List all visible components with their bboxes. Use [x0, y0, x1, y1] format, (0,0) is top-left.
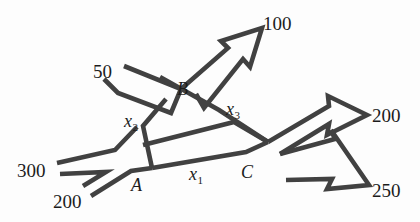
- variable-x3-base: x: [226, 99, 234, 119]
- variable-x1-base: x: [189, 164, 197, 184]
- node-label-b: B: [177, 80, 188, 98]
- node-label-a: A: [131, 176, 142, 194]
- outflow-label-100: 100: [263, 14, 292, 33]
- variable-x2-base: x: [124, 111, 132, 131]
- variable-label-x3: x3: [226, 100, 240, 118]
- inflow-label-50: 50: [93, 62, 112, 81]
- inflow-300-arrow: [57, 127, 137, 163]
- inflow-label-300: 300: [17, 161, 46, 180]
- outflow-label-250: 250: [372, 181, 401, 200]
- outflow-label-200: 200: [372, 106, 401, 125]
- variable-x3-subscript: 3: [235, 109, 241, 121]
- variable-x1-subscript: 1: [198, 174, 204, 186]
- variable-label-x1: x1: [189, 165, 203, 183]
- node-label-c: C: [241, 163, 253, 181]
- variable-x2-subscript: 2: [133, 121, 139, 133]
- variable-label-x2: x2: [124, 112, 138, 130]
- inflow-50-arrow: [104, 66, 181, 113]
- inflow-label-200: 200: [53, 192, 82, 211]
- traffic-flow-diagram: 50 300 200 100 200 250 A B C x1 x2 x3: [0, 0, 420, 222]
- outflow-250-arrow: [280, 130, 369, 189]
- flow-network-graphic: [0, 0, 420, 222]
- edge-diagonal-path: [143, 122, 268, 145]
